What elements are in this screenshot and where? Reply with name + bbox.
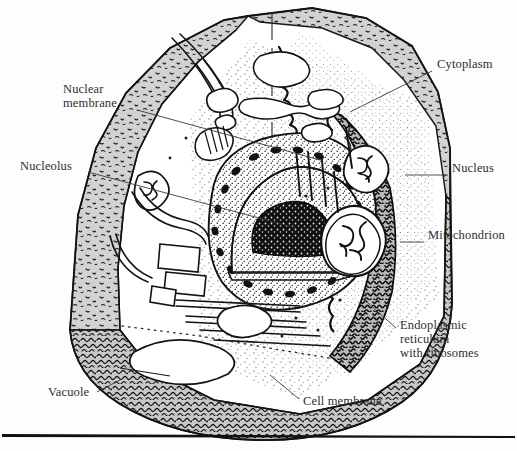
label-mitochondrion: Mitochondrion — [428, 228, 505, 242]
label-nucleolus: Nucleolus — [20, 159, 72, 173]
cell-diagram-figure: Cytoplasm Nuclear membrane Nucleolus Nuc… — [0, 0, 517, 451]
label-endoplasmic-reticulum: Endoplasmic reticulum with ribosomes — [400, 318, 479, 360]
label-vacuole: Vacuole — [48, 385, 89, 399]
vesicle-lower-center — [217, 305, 271, 337]
label-cytoplasm: Cytoplasm — [437, 57, 493, 71]
label-cell-membrane: Cell membrane — [303, 394, 382, 408]
label-nuclear-membrane: Nuclear membrane — [63, 82, 117, 110]
mitochondrion-large — [321, 206, 386, 276]
cell-body — [70, 8, 452, 440]
label-nucleus: Nucleus — [452, 161, 494, 175]
